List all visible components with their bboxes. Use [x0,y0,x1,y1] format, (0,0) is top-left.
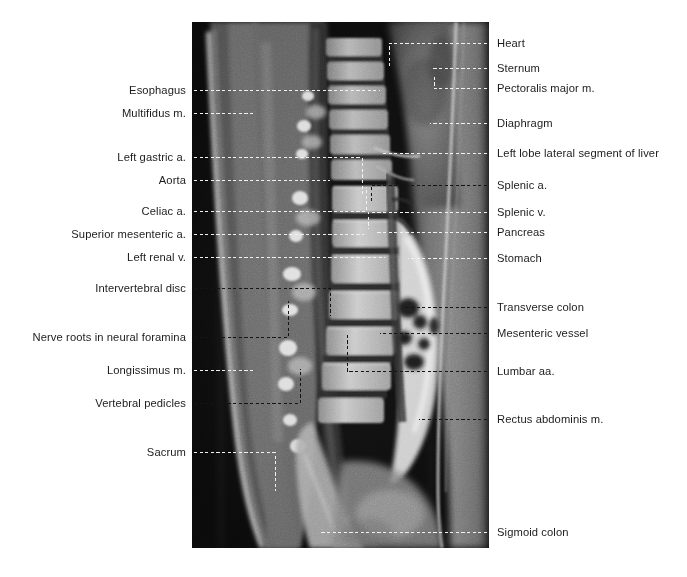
label-pancreas: Pancreas [497,227,545,238]
label-celiac-a: Celiac a. [142,206,186,217]
label-lumbar-aa: Lumbar aa. [497,366,555,377]
label-splenic-a: Splenic a. [497,180,547,191]
label-nerve-roots-neural-foramina: Nerve roots in neural foramina [33,332,186,343]
label-esophagus: Esophagus [129,85,186,96]
label-stomach: Stomach [497,253,542,264]
label-aorta: Aorta [159,175,186,186]
label-sacrum: Sacrum [147,447,186,458]
mri-render [192,22,489,548]
label-diaphragm: Diaphragm [497,118,553,129]
label-longissimus-m: Longissimus m. [107,365,186,376]
label-left-renal-v: Left renal v. [127,252,186,263]
label-sternum: Sternum [497,63,540,74]
label-pectoralis-major-m: Pectoralis major m. [497,83,595,94]
label-left-gastric-a: Left gastric a. [117,152,186,163]
label-rectus-abdominis-m: Rectus abdominis m. [497,414,603,425]
sagittal-mri-image [192,22,489,548]
label-vertebral-pedicles: Vertebral pedicles [95,398,186,409]
label-splenic-v: Splenic v. [497,207,546,218]
label-superior-mesenteric-a: Superior mesenteric a. [71,229,186,240]
label-intervertebral-disc: Intervertebral disc [95,283,186,294]
anatomy-figure: EsophagusMultifidus m.Left gastric a.Aor… [0,0,687,577]
label-heart: Heart [497,38,525,49]
label-left-lobe-lateral-segment-of-liver: Left lobe lateral segment of liver [497,148,659,159]
label-transverse-colon: Transverse colon [497,302,584,313]
label-multifidus-m: Multifidus m. [122,108,186,119]
label-sigmoid-colon: Sigmoid colon [497,527,569,538]
label-mesenteric-vessel: Mesenteric vessel [497,328,588,339]
